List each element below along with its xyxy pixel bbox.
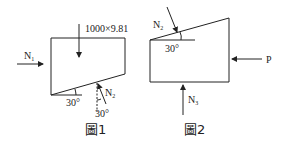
n2-label-2: N2 bbox=[153, 19, 163, 31]
angle-force-label: 30° bbox=[95, 108, 109, 119]
n2-label: N2 bbox=[105, 87, 115, 99]
n2-arrow-2 bbox=[167, 7, 177, 32]
figure-1: 1000×9.81 N1 30° N2 30° 圖1 bbox=[17, 23, 128, 137]
angle-incline-label: 30° bbox=[66, 97, 80, 108]
figure-2: 30° N2 P N3 圖2 bbox=[150, 7, 272, 137]
caption-1: 圖1 bbox=[85, 122, 106, 137]
angle-arc-3 bbox=[180, 32, 181, 40]
block-1 bbox=[51, 38, 125, 95]
caption-2: 圖2 bbox=[184, 122, 205, 137]
weight-label: 1000×9.81 bbox=[85, 23, 128, 34]
n1-label: N1 bbox=[24, 50, 34, 62]
diagram-canvas: 1000×9.81 N1 30° N2 30° 圖1 30° N2 bbox=[0, 0, 284, 142]
n3-label: N3 bbox=[188, 94, 198, 106]
p-label: P bbox=[266, 54, 272, 65]
angle-arc-1 bbox=[75, 89, 76, 95]
angle-arc-2 bbox=[97, 99, 101, 100]
angle-incline-label-2: 30° bbox=[165, 43, 179, 54]
